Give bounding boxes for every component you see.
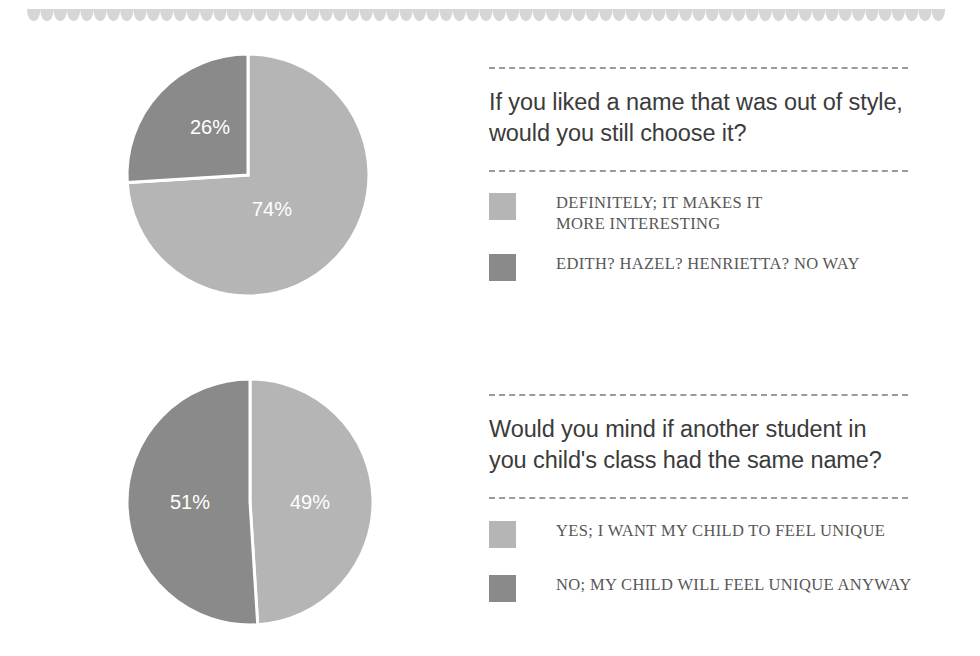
- question-1-rule-bottom: [489, 170, 908, 172]
- scallop-shapes: [27, 9, 945, 21]
- legend-item-label: EDITH? HAZEL? HENRIETTA? NO WAY: [556, 253, 860, 274]
- pie-1-slice-label-74: 74%: [252, 198, 292, 220]
- question-1-rule-top: [489, 67, 908, 69]
- legend-swatch-light: [489, 521, 516, 548]
- legend-item-label: YES; I WANT MY CHILD TO FEEL UNIQUE: [556, 520, 885, 541]
- question-2-text: Would you mind if another student in you…: [489, 414, 919, 476]
- pie-2-slice-label-51: 51%: [170, 491, 210, 513]
- pie-chart-2: 49% 51%: [126, 378, 374, 626]
- legend-2: YES; I WANT MY CHILD TO FEEL UNIQUE NO; …: [489, 520, 911, 628]
- legend-item: EDITH? HAZEL? HENRIETTA? NO WAY: [489, 253, 860, 281]
- legend-item: YES; I WANT MY CHILD TO FEEL UNIQUE: [489, 520, 911, 548]
- scalloped-border: [27, 9, 945, 23]
- question-2-rule-top: [489, 394, 908, 396]
- pie-2-slice-label-49: 49%: [290, 491, 330, 513]
- legend-swatch-light: [489, 193, 516, 220]
- pie-1-slice-label-26: 26%: [190, 116, 230, 138]
- legend-item: DEFINITELY; IT MAKES IT MORE INTERESTING: [489, 192, 860, 234]
- legend-swatch-dark: [489, 575, 516, 602]
- legend-item-label: NO; MY CHILD WILL FEEL UNIQUE ANYWAY: [556, 574, 911, 595]
- pie-2-slices: [127, 379, 373, 625]
- question-2-rule-bottom: [489, 497, 908, 499]
- legend-swatch-dark: [489, 254, 516, 281]
- legend-item-label: DEFINITELY; IT MAKES IT MORE INTERESTING: [556, 192, 763, 234]
- legend-item: NO; MY CHILD WILL FEEL UNIQUE ANYWAY: [489, 574, 911, 602]
- pie-chart-1: 74% 26%: [126, 53, 370, 297]
- question-1-text: If you liked a name that was out of styl…: [489, 87, 919, 149]
- legend-1: DEFINITELY; IT MAKES IT MORE INTERESTING…: [489, 192, 860, 300]
- pie-1-slices: [127, 54, 369, 296]
